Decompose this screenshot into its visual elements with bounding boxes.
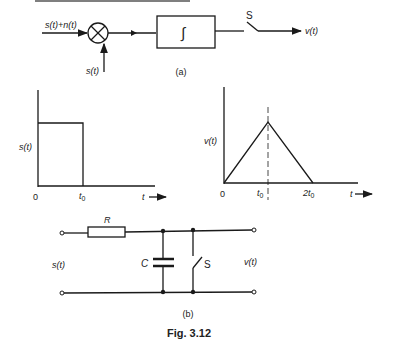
switch-b-label: S [204, 259, 211, 270]
node-dot [191, 290, 195, 294]
input-terminal-bottom [60, 291, 64, 295]
switch-a-label: S [246, 10, 253, 21]
wire-arrowhead [131, 30, 137, 36]
v-tick-0: 0 [220, 189, 225, 199]
s-tick-t0: t0 [79, 191, 86, 202]
s-xlabel: t [142, 192, 145, 202]
s-pulse [38, 123, 83, 186]
resistor-label: R [104, 215, 111, 225]
v-tick-2t0: 2t0 [302, 188, 315, 199]
output-label-a: v(t) [305, 26, 318, 36]
capacitor-label: C [141, 258, 149, 269]
part-a-label: (a) [176, 67, 187, 77]
v-triangle [224, 122, 313, 183]
circuit-output-label: v(t) [244, 257, 257, 267]
figure-canvas: s(t)+n(t) s(t) ∫ S v(t) (a) s(t) 0 t0 t [0, 0, 394, 339]
integrator-block [157, 16, 215, 48]
switch-b [193, 257, 202, 268]
switch-a [247, 22, 258, 31]
v-xlabel: t [350, 189, 353, 199]
v-tick-t0: t0 [257, 188, 264, 199]
plot-s: s(t) 0 t0 t [19, 90, 166, 202]
circuit-b: R C S s(t) v(t) (b) [52, 215, 257, 319]
node-dot [161, 229, 165, 233]
v-ylabel: v(t) [204, 136, 217, 146]
s-ylabel: s(t) [19, 142, 32, 152]
reference-label: s(t) [86, 66, 99, 76]
output-terminal-bottom [252, 290, 256, 294]
plot-v: v(t) 0 t0 2t0 t [204, 87, 372, 200]
multiplier-icon [88, 23, 108, 43]
circuit-input-label: s(t) [52, 260, 65, 270]
wire-top [125, 230, 252, 232]
block-diagram-a: s(t)+n(t) s(t) ∫ S v(t) (a) [42, 10, 318, 77]
resistor [88, 227, 125, 237]
node-dot [191, 228, 195, 232]
input-terminal-top [60, 231, 64, 235]
part-b-label: (b) [183, 309, 194, 319]
input-label: s(t)+n(t) [45, 20, 77, 30]
wire-bottom [64, 292, 252, 293]
output-terminal-top [252, 228, 256, 232]
node-dot [161, 290, 165, 294]
integral-icon: ∫ [180, 24, 187, 42]
s-tick-0: 0 [33, 192, 38, 202]
figure-caption: Fig. 3.12 [167, 327, 211, 339]
